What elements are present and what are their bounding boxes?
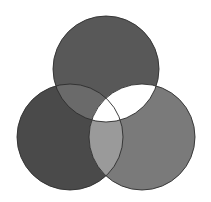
venn-diagram-canvas bbox=[0, 0, 211, 202]
venn-diagram bbox=[0, 0, 211, 202]
